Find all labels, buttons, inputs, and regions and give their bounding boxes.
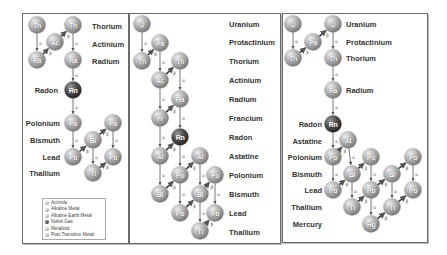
isotope-node-po: Po (105, 115, 122, 132)
isotope-node-po: Po (405, 149, 422, 166)
isotope-node-pb: Pb (207, 205, 224, 222)
element-label: Thorium (92, 22, 122, 31)
element-label: Thallium (29, 169, 60, 178)
isotope-node-rn: Rn (65, 82, 82, 99)
element-label: Polonium (288, 153, 322, 162)
element-label: Polonium (26, 119, 60, 128)
element-label: Uranium (346, 20, 376, 29)
element-label: Thallium (229, 228, 260, 237)
element-label: Polonium (229, 171, 263, 180)
isotope-node-tl: Tl (192, 223, 209, 240)
isotope-node-ra: Ra (65, 52, 82, 69)
isotope-node-u: U (285, 16, 302, 33)
isotope-node-bi: Bi (344, 166, 361, 183)
isotope-node-tl: Tl (85, 165, 102, 182)
isotope-node-bi: Bi (192, 186, 209, 203)
isotope-node-bi: Bi (152, 186, 169, 203)
isotope-node-pb: Pb (172, 205, 189, 222)
element-label: Radium (346, 86, 374, 95)
legend-swatch-icon (45, 233, 49, 237)
element-label: Thorium (346, 54, 376, 63)
isotope-node-ac: Ac (152, 72, 169, 89)
legend-label: Post Transition Metal (51, 232, 94, 238)
isotope-node-at: At (192, 148, 209, 165)
isotope-node-pb: Pb (325, 182, 342, 199)
isotope-node-tl: Tl (344, 199, 361, 216)
isotope-node-th: Th (285, 50, 302, 67)
isotope-node-fr: Fr (152, 110, 169, 127)
element-label: Protactinium (346, 38, 392, 47)
panel-uranium-series (129, 13, 281, 244)
isotope-node-po: Po (363, 149, 380, 166)
isotope-node-po: Po (65, 115, 82, 132)
isotope-node-pb: Pb (105, 149, 122, 166)
isotope-node-ra: Ra (29, 52, 46, 69)
element-label: Mercury (293, 220, 322, 229)
element-label: Protactinium (229, 38, 275, 47)
isotope-node-ra: Ra (325, 82, 342, 99)
element-label: Lead (304, 186, 322, 195)
isotope-node-po: Po (325, 149, 342, 166)
element-label: Radium (92, 57, 120, 66)
isotope-node-at: At (152, 148, 169, 165)
isotope-node-pb: Pb (65, 149, 82, 166)
element-label: Lead (42, 153, 60, 162)
isotope-node-th: Th (29, 17, 46, 34)
element-label: Thallium (291, 203, 322, 212)
isotope-node-tl: Tl (384, 199, 401, 216)
isotope-node-th: Th (172, 53, 189, 70)
isotope-node-bi: Bi (384, 166, 401, 183)
isotope-node-po: Po (207, 167, 224, 184)
element-label: Astatine (292, 137, 322, 146)
isotope-node-u: U (325, 16, 342, 33)
isotope-node-pb: Pb (405, 182, 422, 199)
isotope-node-bi: Bi (85, 132, 102, 149)
isotope-node-u: U (134, 16, 151, 33)
element-label: Bismuth (292, 170, 322, 179)
isotope-node-ac: Ac (47, 34, 64, 51)
element-label: Actinium (229, 76, 261, 85)
isotope-node-pb: Pb (363, 182, 380, 199)
legend: ActinideAlkaline MetalAlkaline Earth Met… (42, 198, 106, 240)
element-label: Uranium (229, 20, 259, 29)
element-label: Actinium (92, 40, 124, 49)
element-label: Bismuth (229, 190, 259, 199)
isotope-node-hg: Hg (363, 216, 380, 233)
legend-item: Post Transition Metal (45, 232, 103, 238)
element-label: Radon (35, 86, 58, 95)
isotope-node-at: At (340, 132, 357, 149)
isotope-node-th: Th (134, 53, 151, 70)
isotope-node-rn: Rn (325, 116, 342, 133)
isotope-node-th: Th (65, 17, 82, 34)
isotope-node-po: Po (172, 167, 189, 184)
legend-swatch-icon (45, 214, 49, 218)
element-label: Lead (229, 209, 247, 218)
legend-swatch-icon (45, 201, 49, 205)
element-label: Astatine (229, 152, 259, 161)
legend-swatch-icon (45, 220, 49, 224)
isotope-node-pa: Pa (305, 34, 322, 51)
legend-swatch-icon (45, 208, 49, 212)
element-label: Thorium (229, 57, 259, 66)
legend-swatch-icon (45, 227, 49, 231)
element-label: Radon (299, 120, 322, 129)
element-label: Radon (229, 133, 252, 142)
element-label: Radium (229, 95, 257, 104)
isotope-node-pa: Pa (152, 35, 169, 52)
element-label: Francium (229, 114, 263, 123)
isotope-node-ra: Ra (172, 91, 189, 108)
isotope-node-rn: Rn (172, 129, 189, 146)
element-label: Bismuth (30, 136, 60, 145)
isotope-node-th: Th (325, 50, 342, 67)
